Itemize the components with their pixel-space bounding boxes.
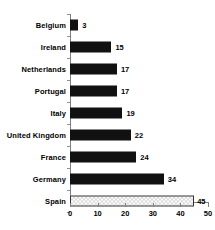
y-axis-tick (67, 80, 70, 81)
bar-value-label: 15 (115, 43, 123, 52)
bar: 22 (70, 130, 131, 141)
bar-value-label: 34 (168, 175, 176, 184)
category-label: Netherlands (22, 65, 66, 74)
y-axis-tick (67, 102, 70, 103)
category-label: France (41, 153, 66, 162)
category-label: Spain (45, 197, 66, 206)
y-axis-tick (67, 58, 70, 59)
bar-row: Germany34 (70, 168, 208, 190)
bar: 24 (70, 152, 136, 163)
x-axis-scale: 01020304050 (70, 203, 208, 225)
plot-area: Belgium3Ireland15Netherlands17Portugal17… (70, 14, 208, 202)
bar-value-label: 22 (135, 131, 143, 140)
y-axis-tick (67, 14, 70, 15)
category-label: Portugal (35, 87, 66, 96)
bar: 3 (70, 20, 78, 31)
bar: 17 (70, 64, 117, 75)
bar-row: Ireland15 (70, 36, 208, 58)
x-axis-tick-label: 0 (68, 209, 72, 218)
category-label: Germany (33, 175, 66, 184)
x-axis-tick-label: 40 (176, 209, 184, 218)
bar-row: United Kingdom22 (70, 124, 208, 146)
category-label: Italy (50, 109, 66, 118)
bar-row: Netherlands17 (70, 58, 208, 80)
bar-value-label: 17 (121, 65, 129, 74)
x-axis-tick (208, 203, 209, 207)
x-axis-tick-label: 30 (149, 209, 157, 218)
bar-row: Portugal17 (70, 80, 208, 102)
x-axis-tick (153, 203, 154, 207)
bar: 15 (70, 42, 111, 53)
x-axis-tick-label: 20 (121, 209, 129, 218)
bar-row: Belgium3 (70, 14, 208, 36)
bar-value-label: 19 (126, 109, 134, 118)
bar-value-label: 24 (140, 153, 148, 162)
x-axis-tick (98, 203, 99, 207)
bar-row: France24 (70, 146, 208, 168)
y-axis-tick (67, 36, 70, 37)
bar: 34 (70, 174, 164, 185)
x-axis-tick-label: 10 (93, 209, 101, 218)
x-axis-tick (125, 203, 126, 207)
x-axis-tick-label: 50 (204, 209, 212, 218)
y-axis-tick (67, 168, 70, 169)
category-label: Ireland (41, 43, 66, 52)
x-axis-tick (180, 203, 181, 207)
category-label: United Kingdom (7, 131, 66, 140)
y-axis-tick (67, 124, 70, 125)
bar: 17 (70, 86, 117, 97)
bar: 19 (70, 108, 122, 119)
y-axis-tick (67, 146, 70, 147)
bar-row: Italy19 (70, 102, 208, 124)
y-axis-tick (67, 190, 70, 191)
bar-chart: Belgium3Ireland15Netherlands17Portugal17… (0, 0, 215, 230)
category-label: Belgium (36, 21, 66, 30)
bar-value-label: 3 (82, 21, 86, 30)
bar-value-label: 17 (121, 87, 129, 96)
x-axis-tick (70, 203, 71, 207)
